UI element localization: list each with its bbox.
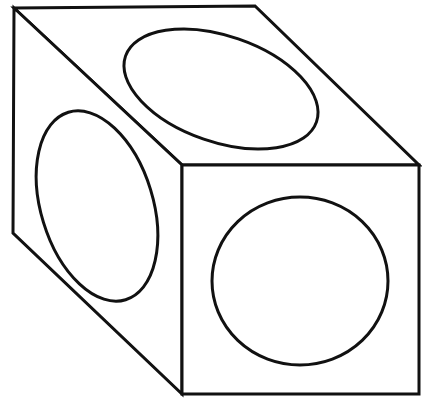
cube-diagram xyxy=(0,0,422,406)
cube-faces xyxy=(13,6,419,394)
front-face xyxy=(182,165,419,394)
cube-drawing xyxy=(0,0,422,406)
